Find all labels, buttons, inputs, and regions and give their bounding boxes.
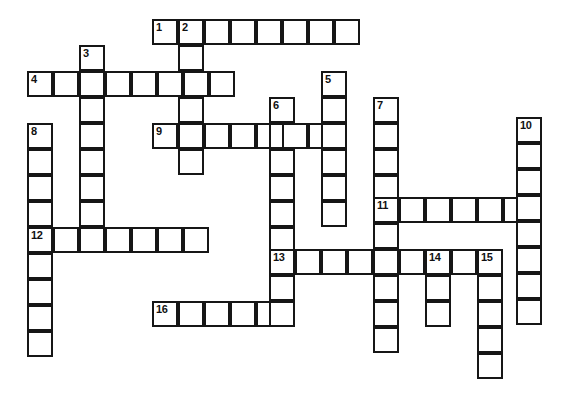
crossword-cell-numbered-2[interactable]: 2 bbox=[178, 19, 204, 45]
crossword-cell[interactable] bbox=[27, 201, 53, 227]
crossword-cell[interactable] bbox=[321, 249, 347, 275]
clue-number-3: 3 bbox=[83, 47, 89, 59]
crossword-cell[interactable] bbox=[204, 19, 230, 45]
crossword-cell[interactable] bbox=[516, 195, 542, 221]
crossword-cell[interactable] bbox=[373, 123, 399, 149]
crossword-cell[interactable] bbox=[53, 227, 79, 253]
crossword-cell[interactable] bbox=[230, 123, 256, 149]
crossword-cell[interactable] bbox=[425, 275, 451, 301]
crossword-cell-numbered-16[interactable]: 16 bbox=[152, 301, 178, 327]
crossword-cell[interactable] bbox=[373, 327, 399, 353]
crossword-cell[interactable] bbox=[516, 247, 542, 273]
crossword-cell-numbered-1[interactable]: 1 bbox=[152, 19, 178, 45]
crossword-grid[interactable]: 12345671089111213141516 bbox=[0, 0, 574, 401]
crossword-cell[interactable] bbox=[105, 71, 131, 97]
crossword-cell[interactable] bbox=[209, 71, 235, 97]
crossword-cell[interactable] bbox=[373, 249, 399, 275]
crossword-cell[interactable] bbox=[282, 19, 308, 45]
crossword-cell[interactable] bbox=[321, 201, 347, 227]
crossword-cell[interactable] bbox=[178, 97, 204, 123]
crossword-cell[interactable] bbox=[477, 275, 503, 301]
crossword-cell-numbered-12[interactable]: 12 bbox=[27, 227, 53, 253]
crossword-cell[interactable] bbox=[27, 331, 53, 357]
crossword-cell[interactable] bbox=[256, 19, 282, 45]
clue-number-4: 4 bbox=[31, 73, 37, 85]
crossword-cell[interactable] bbox=[79, 71, 105, 97]
crossword-cell-numbered-6[interactable]: 6 bbox=[269, 97, 295, 123]
crossword-cell[interactable] bbox=[79, 123, 105, 149]
crossword-cell[interactable] bbox=[516, 143, 542, 169]
crossword-cell[interactable] bbox=[373, 149, 399, 175]
crossword-cell[interactable] bbox=[178, 123, 204, 149]
crossword-cell-numbered-14[interactable]: 14 bbox=[425, 249, 451, 275]
crossword-cell[interactable] bbox=[157, 227, 183, 253]
crossword-cell[interactable] bbox=[451, 197, 477, 223]
crossword-cell-numbered-9[interactable]: 9 bbox=[152, 123, 178, 149]
crossword-cell[interactable] bbox=[230, 301, 256, 327]
crossword-cell[interactable] bbox=[308, 19, 334, 45]
crossword-cell[interactable] bbox=[131, 227, 157, 253]
crossword-cell[interactable] bbox=[477, 327, 503, 353]
crossword-cell[interactable] bbox=[516, 221, 542, 247]
crossword-cell[interactable] bbox=[373, 223, 399, 249]
crossword-cell[interactable] bbox=[282, 123, 308, 149]
crossword-cell[interactable] bbox=[295, 249, 321, 275]
crossword-cell[interactable] bbox=[477, 301, 503, 327]
crossword-cell[interactable] bbox=[269, 175, 295, 201]
crossword-cell-numbered-11[interactable]: 11 bbox=[373, 197, 399, 223]
crossword-cell[interactable] bbox=[27, 253, 53, 279]
crossword-cell-numbered-13[interactable]: 13 bbox=[269, 249, 295, 275]
crossword-cell[interactable] bbox=[204, 123, 230, 149]
crossword-cell[interactable] bbox=[105, 227, 131, 253]
crossword-cell[interactable] bbox=[516, 299, 542, 325]
crossword-cell[interactable] bbox=[27, 279, 53, 305]
crossword-cell[interactable] bbox=[27, 305, 53, 331]
crossword-cell[interactable] bbox=[79, 149, 105, 175]
crossword-cell[interactable] bbox=[178, 149, 204, 175]
crossword-cell[interactable] bbox=[178, 301, 204, 327]
crossword-cell[interactable] bbox=[477, 353, 503, 379]
crossword-cell[interactable] bbox=[347, 249, 373, 275]
crossword-cell[interactable] bbox=[79, 97, 105, 123]
crossword-cell-numbered-3[interactable]: 3 bbox=[79, 45, 105, 71]
crossword-cell[interactable] bbox=[425, 301, 451, 327]
crossword-cell[interactable] bbox=[79, 175, 105, 201]
crossword-cell[interactable] bbox=[269, 149, 295, 175]
crossword-cell[interactable] bbox=[204, 301, 230, 327]
crossword-cell[interactable] bbox=[157, 71, 183, 97]
crossword-cell[interactable] bbox=[399, 197, 425, 223]
crossword-cell[interactable] bbox=[321, 175, 347, 201]
crossword-cell[interactable] bbox=[269, 275, 295, 301]
crossword-cell[interactable] bbox=[425, 197, 451, 223]
crossword-cell-numbered-5[interactable]: 5 bbox=[321, 71, 347, 97]
crossword-cell-numbered-7[interactable]: 7 bbox=[373, 97, 399, 123]
crossword-cell[interactable] bbox=[373, 275, 399, 301]
crossword-cell[interactable] bbox=[321, 123, 347, 149]
crossword-cell-numbered-10[interactable]: 10 bbox=[516, 117, 542, 143]
crossword-cell[interactable] bbox=[27, 149, 53, 175]
crossword-cell[interactable] bbox=[178, 45, 204, 71]
crossword-cell[interactable] bbox=[516, 169, 542, 195]
clue-number-14: 14 bbox=[429, 251, 441, 263]
crossword-cell[interactable] bbox=[53, 71, 79, 97]
crossword-cell[interactable] bbox=[321, 97, 347, 123]
crossword-cell[interactable] bbox=[230, 19, 256, 45]
crossword-cell[interactable] bbox=[183, 71, 209, 97]
crossword-cell[interactable] bbox=[79, 201, 105, 227]
crossword-cell[interactable] bbox=[27, 175, 53, 201]
crossword-cell[interactable] bbox=[269, 301, 295, 327]
crossword-cell[interactable] bbox=[334, 19, 360, 45]
crossword-cell[interactable] bbox=[451, 249, 477, 275]
crossword-cell[interactable] bbox=[79, 227, 105, 253]
crossword-cell[interactable] bbox=[183, 227, 209, 253]
crossword-cell-numbered-4[interactable]: 4 bbox=[27, 71, 53, 97]
crossword-cell[interactable] bbox=[321, 149, 347, 175]
crossword-cell[interactable] bbox=[269, 201, 295, 227]
crossword-cell[interactable] bbox=[477, 197, 503, 223]
crossword-cell-numbered-8[interactable]: 8 bbox=[27, 123, 53, 149]
crossword-cell[interactable] bbox=[131, 71, 157, 97]
crossword-cell-numbered-15[interactable]: 15 bbox=[477, 249, 503, 275]
crossword-cell[interactable] bbox=[373, 301, 399, 327]
crossword-cell[interactable] bbox=[399, 249, 425, 275]
crossword-cell[interactable] bbox=[516, 273, 542, 299]
